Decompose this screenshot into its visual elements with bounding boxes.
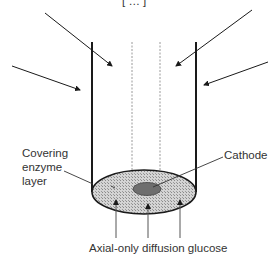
electrode-diagram: [ … ] Covering enzyme layer Cathode Axia… [0, 0, 279, 259]
label-cathode: Cathode [224, 149, 267, 161]
arrow-lower-left [12, 66, 80, 90]
label-axial-diffusion: Axial-only diffusion glucose [89, 242, 228, 254]
cathode-disk [133, 183, 161, 196]
enzyme-leader-line [64, 171, 93, 184]
arrow-upper-right [176, 10, 252, 66]
label-enzyme-layer: Covering enzyme layer [22, 147, 71, 187]
arrow-lower-right [204, 62, 268, 85]
top-caption-fragment: [ … ] [122, 0, 146, 7]
arrow-upper-left [45, 13, 112, 66]
